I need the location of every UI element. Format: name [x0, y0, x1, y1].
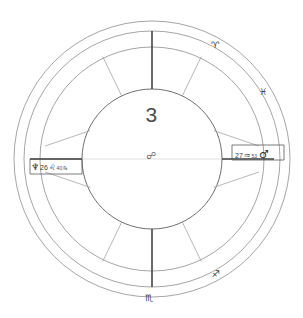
mars-icon: ♂: [259, 149, 269, 160]
mars-degree: 27: [235, 152, 243, 159]
planet-label-mars: 27 ♒ 53 ♂: [234, 149, 269, 160]
mars-minute: 53: [252, 154, 258, 159]
retrograde-icon: ℞: [63, 166, 67, 171]
sign-glyph-sagittarius: ♐: [212, 270, 220, 279]
aquarius-icon: ♒: [244, 152, 251, 160]
leo-icon: ♌: [49, 164, 56, 172]
planet-label-neptune: ♆ 26 ♌ 40 ℞: [31, 163, 68, 172]
astro-chart-wheel: ♈ ♓ ♐ ♏ 3 ☍ ♆ 26 ♌ 40 ℞ 27 ♒ 53 ♂: [0, 0, 303, 318]
sign-glyph-scorpio: ♏: [145, 294, 153, 303]
neptune-minute: 40: [57, 166, 63, 171]
neptune-icon: ♆: [31, 163, 39, 172]
sign-glyph-pisces: ♓: [259, 88, 267, 97]
neptune-degree: 26: [40, 164, 48, 171]
center-house-number: 3: [0, 104, 303, 125]
sign-glyph-aries: ♈: [211, 41, 219, 50]
